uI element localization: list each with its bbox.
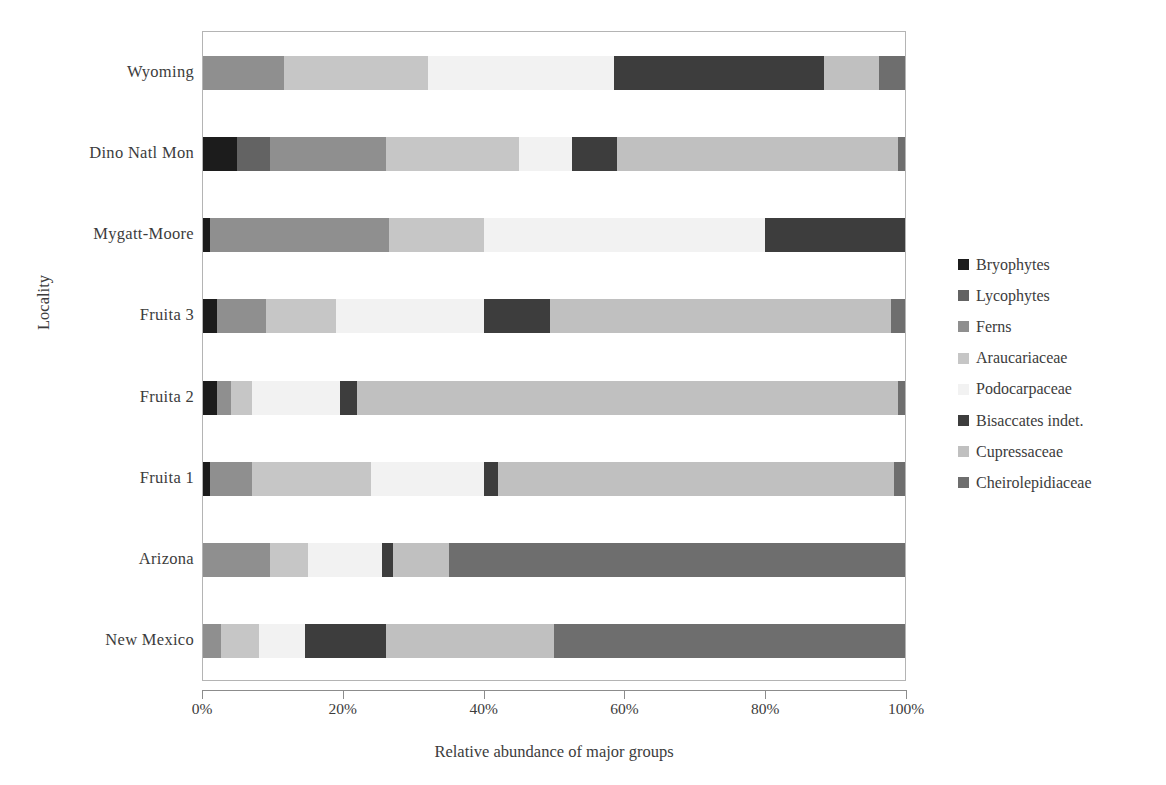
bar-segment[interactable] [449,543,905,577]
x-axis-tick-label: 40% [444,700,524,718]
legend-label: Araucariaceae [976,350,1067,366]
legend-item[interactable]: Araucariaceae [958,343,1158,374]
legend-swatch-icon [958,353,969,364]
x-axis-tick-label: 80% [725,700,805,718]
bar-segment[interactable] [550,299,890,333]
bar-segment[interactable] [614,56,825,90]
legend-label: Lycophytes [976,288,1050,304]
bar-segment[interactable] [389,218,484,252]
bar-segment[interactable] [237,137,270,171]
bar-segment[interactable] [266,299,336,333]
bar-segment[interactable] [203,543,270,577]
bar-segment[interactable] [898,137,905,171]
legend-item[interactable]: Bryophytes [958,249,1158,280]
bar-segment[interactable] [336,299,483,333]
bar-segment[interactable] [898,381,905,415]
legend-item[interactable]: Podocarpaceae [958,374,1158,405]
x-axis-tick-label: 100% [866,700,946,718]
y-axis-tick-labels: WyomingDino Natl MonMygatt-MooreFruita 3… [8,31,194,681]
bar-segment[interactable] [203,137,237,171]
bar-segment[interactable] [824,56,879,90]
bar-segment[interactable] [217,381,231,415]
bar-row[interactable] [203,624,905,658]
x-axis-tick-label: 0% [162,700,242,718]
bar-segment[interactable] [203,56,284,90]
bar-segment[interactable] [891,299,905,333]
legend-label: Podocarpaceae [976,381,1072,397]
bar-segment[interactable] [210,462,252,496]
chart-legend: BryophytesLycophytesFernsAraucariaceaePo… [958,249,1158,499]
bar-segment[interactable] [554,624,905,658]
bar-row[interactable] [203,137,905,171]
x-axis-tick [906,690,907,699]
y-axis-tick-label: Fruita 1 [14,468,194,488]
bar-row[interactable] [203,56,905,90]
legend-swatch-icon [958,290,969,301]
bar-segment[interactable] [308,543,382,577]
legend-item[interactable]: Bisaccates indet. [958,405,1158,436]
bar-segment[interactable] [203,299,217,333]
chart-root: Locality WyomingDino Natl MonMygatt-Moor… [0,0,1166,785]
legend-item[interactable]: Cupressaceae [958,436,1158,467]
y-axis-tick-label: Fruita 2 [14,387,194,407]
bar-segment[interactable] [203,218,210,252]
legend-label: Bisaccates indet. [976,413,1084,429]
legend-item[interactable]: Lycophytes [958,280,1158,311]
bar-segment[interactable] [428,56,614,90]
bar-segment[interactable] [765,218,905,252]
x-axis-line [202,690,907,691]
bar-segment[interactable] [371,462,483,496]
bar-segment[interactable] [284,56,428,90]
x-axis-tick [202,690,203,699]
bar-segment[interactable] [386,624,554,658]
bar-segment[interactable] [519,137,572,171]
bar-segment[interactable] [357,381,898,415]
legend-swatch-icon [958,446,969,457]
bar-row[interactable] [203,299,905,333]
bar-segment[interactable] [894,462,905,496]
bar-segment[interactable] [270,543,309,577]
bar-row[interactable] [203,381,905,415]
legend-item[interactable]: Cheirolepidiaceae [958,467,1158,498]
y-axis-tick-label: Fruita 3 [14,305,194,325]
bar-segment[interactable] [572,137,618,171]
bar-segment[interactable] [217,299,266,333]
x-axis-title: Relative abundance of major groups [0,742,1108,762]
y-axis-tick-label: Mygatt-Moore [14,224,194,244]
bar-segment[interactable] [252,462,371,496]
bar-segment[interactable] [203,381,217,415]
bar-segment[interactable] [231,381,252,415]
bar-segment[interactable] [617,137,898,171]
bar-segment[interactable] [340,381,358,415]
legend-label: Cupressaceae [976,444,1063,460]
bar-segment[interactable] [879,56,905,90]
bar-segment[interactable] [305,624,386,658]
bar-segment[interactable] [484,218,765,252]
plot-area [202,31,906,681]
bar-segment[interactable] [203,462,210,496]
bar-row[interactable] [203,218,905,252]
bar-segment[interactable] [393,543,449,577]
legend-swatch-icon [958,321,969,332]
bar-row[interactable] [203,543,905,577]
legend-label: Ferns [976,319,1012,335]
x-axis-tick [484,690,485,699]
bar-segment[interactable] [484,462,498,496]
legend-item[interactable]: Ferns [958,311,1158,342]
bar-segment[interactable] [270,137,386,171]
bar-segment[interactable] [252,381,340,415]
legend-label: Bryophytes [976,257,1050,273]
bar-segment[interactable] [221,624,260,658]
y-axis-tick-label: Arizona [14,549,194,569]
bar-segment[interactable] [382,543,393,577]
y-axis-tick-label: New Mexico [14,630,194,650]
x-axis-tick [343,690,344,699]
y-axis-tick-label: Wyoming [14,62,194,82]
bar-row[interactable] [203,462,905,496]
bar-segment[interactable] [386,137,519,171]
bar-segment[interactable] [203,624,221,658]
bar-segment[interactable] [484,299,551,333]
bar-segment[interactable] [259,624,305,658]
bar-segment[interactable] [498,462,895,496]
bar-segment[interactable] [210,218,389,252]
